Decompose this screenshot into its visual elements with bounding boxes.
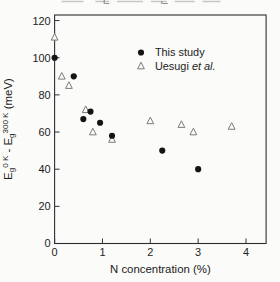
y-tick-label: 120 [32,15,50,27]
legend: This study Uesugi et al. [138,46,216,72]
data-point-filled-circle [87,109,93,115]
figure-panel: N concentration (%) Eg0 K - Eg300 K (meV… [0,0,280,282]
data-point-open-triangle [147,117,154,124]
scatter-plot: N concentration (%) Eg0 K - Eg300 K (meV… [0,0,280,282]
data-point-filled-circle [80,116,86,122]
x-tick-label: 2 [147,246,153,258]
y-tick-label: 100 [32,52,50,64]
x-tick-label: 4 [243,246,249,258]
data-point-filled-circle [52,55,58,61]
x-tick-label: 1 [99,246,105,258]
legend-marker-open-triangle [138,62,145,69]
data-point-filled-circle [195,166,201,172]
y-tick-label: 80 [38,89,50,101]
data-point-open-triangle [58,73,65,80]
x-tick-label: 0 [52,246,58,258]
legend-label-this-study: This study [155,46,205,58]
data-point-filled-circle [159,148,165,154]
data-point-filled-circle [71,73,77,79]
y-axis-label: Eg0 K - Eg300 K (meV) [1,78,16,180]
legend-label-uesugi: Uesugi et al. [155,60,216,72]
data-point-open-triangle [90,128,97,135]
data-point-filled-circle [97,120,103,126]
y-tick-label: 20 [38,200,50,212]
y-tick-label: 40 [38,163,50,175]
data-point-open-triangle [228,123,235,130]
y-tick-label: 60 [38,126,50,138]
data-point-open-triangle [51,33,58,40]
series-uesugi [51,33,235,142]
legend-marker-filled-circle [138,49,144,55]
series-this-study [52,55,202,173]
data-point-open-triangle [190,128,197,135]
y-tick-label: 0 [45,237,51,249]
data-point-open-triangle [66,82,73,89]
x-axis-label: N concentration (%) [110,263,211,275]
data-point-filled-circle [109,133,115,139]
x-tick-label: 3 [195,246,201,258]
data-point-open-triangle [178,121,185,128]
cropped-text-fragment [62,0,221,4]
